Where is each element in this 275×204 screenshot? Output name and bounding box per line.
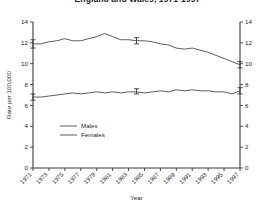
line-chart-plot: 0022446688101012121414197119731975197719…: [0, 0, 275, 204]
y-tick-label-right-2: 4: [245, 122, 249, 129]
y-tick-label-left-3: 6: [25, 102, 29, 109]
y-tick-label-right-7: 14: [245, 18, 252, 25]
x-tick-label-7: 1985: [130, 171, 144, 185]
legend-label-males: Males: [81, 122, 98, 129]
x-tick-label-9: 1989: [162, 171, 176, 185]
x-tick-label-2: 1975: [51, 171, 65, 185]
x-tick-label-6: 1983: [115, 171, 129, 185]
y-tick-label-left-5: 10: [21, 60, 28, 67]
y-tick-label-right-0: 0: [245, 164, 249, 171]
y-axis-label: Rate per 100,000: [5, 71, 12, 119]
y-tick-label-right-1: 2: [245, 143, 249, 150]
x-tick-label-12: 1995: [210, 171, 224, 185]
x-tick-label-3: 1977: [67, 171, 81, 185]
chart-container: England and Wales, 1971-1997 00224466881…: [0, 0, 275, 204]
x-tick-label-1: 1973: [35, 171, 49, 185]
x-tick-label-10: 1991: [178, 171, 192, 185]
y-tick-label-left-2: 4: [25, 122, 29, 129]
y-tick-label-left-0: 0: [25, 164, 29, 171]
y-tick-label-right-5: 10: [245, 60, 252, 67]
x-tick-label-8: 1987: [146, 171, 160, 185]
y-tick-label-right-4: 8: [245, 81, 249, 88]
x-tick-label-4: 1979: [83, 171, 97, 185]
x-tick-label-0: 1971: [19, 171, 33, 185]
x-tick-label-11: 1993: [194, 171, 208, 185]
y-tick-label-right-3: 6: [245, 102, 249, 109]
x-tick-label-13: 1997: [226, 171, 240, 185]
x-axis-label: Year: [130, 194, 143, 201]
y-tick-label-right-6: 12: [245, 39, 252, 46]
y-tick-label-left-6: 12: [21, 39, 28, 46]
x-tick-label-5: 1981: [99, 171, 113, 185]
legend-label-females: Females: [81, 131, 105, 138]
y-tick-label-left-7: 14: [21, 18, 28, 25]
y-tick-label-left-4: 8: [25, 81, 29, 88]
y-tick-label-left-1: 2: [25, 143, 29, 150]
